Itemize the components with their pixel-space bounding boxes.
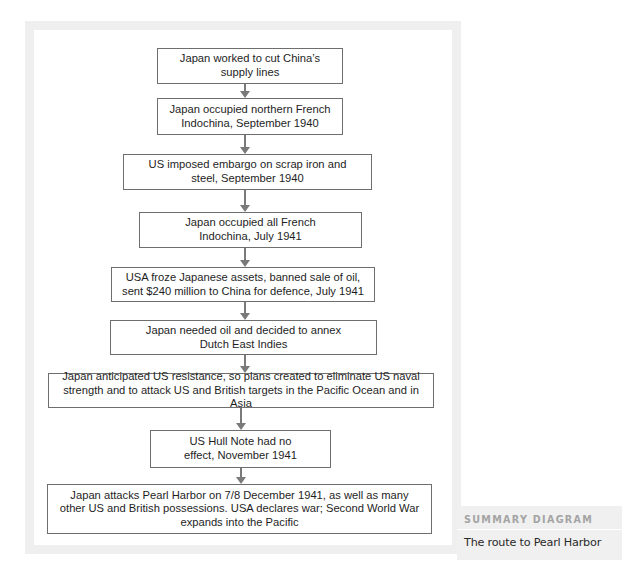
flow-box-2: Japan occupied northern French Indochina… xyxy=(157,98,343,135)
arrow-down-icon xyxy=(240,84,250,98)
arrow-down-icon xyxy=(240,248,250,267)
arrow-down-icon xyxy=(236,408,246,430)
arrow-down-icon xyxy=(236,468,246,484)
label-heading: SUMMARY DIAGRAM xyxy=(457,506,622,530)
flow-box-1: Japan worked to cut China’s supply lines xyxy=(157,48,343,84)
flow-box-text: Japan needed oil and decided to annex Du… xyxy=(137,324,350,351)
flow-box-8: US Hull Note had no effect, November 194… xyxy=(150,430,331,468)
flow-box-9: Japan attacks Pearl Harbor on 7/8 Decemb… xyxy=(47,484,432,534)
flow-box-3: US imposed embargo on scrap iron and ste… xyxy=(123,154,372,190)
flow-box-text: Japan worked to cut China’s supply lines xyxy=(176,52,324,79)
arrow-down-icon xyxy=(240,302,250,320)
arrow-down-icon xyxy=(240,190,250,212)
flow-box-7: Japan anticipated US resistance, so plan… xyxy=(48,373,434,408)
flow-box-4: Japan occupied all French Indochina, Jul… xyxy=(139,212,362,248)
flow-box-text: Japan occupied northern French Indochina… xyxy=(166,103,334,130)
flow-box-5: USA froze Japanese assets, banned sale o… xyxy=(111,267,375,302)
flow-box-text: US imposed embargo on scrap iron and ste… xyxy=(144,158,351,185)
flow-box-text: USA froze Japanese assets, banned sale o… xyxy=(116,271,370,298)
flow-box-text: US Hull Note had no effect, November 194… xyxy=(181,435,300,462)
arrow-down-icon xyxy=(240,135,250,154)
flow-box-6: Japan needed oil and decided to annex Du… xyxy=(110,320,377,355)
flow-box-text: Japan attacks Pearl Harbor on 7/8 Decemb… xyxy=(58,489,421,530)
flow-box-text: Japan occupied all French Indochina, Jul… xyxy=(172,216,329,243)
label-caption: The route to Pearl Harbor xyxy=(464,536,601,549)
flow-box-text: Japan anticipated US resistance, so plan… xyxy=(53,370,429,411)
diagram-label: SUMMARY DIAGRAM The route to Pearl Harbo… xyxy=(457,506,622,560)
